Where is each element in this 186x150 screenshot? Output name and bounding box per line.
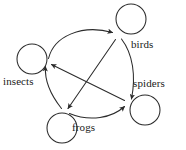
food-web-diagram: insects birds spiders frogs: [0, 0, 186, 150]
node-label-birds: birds: [131, 39, 154, 50]
birds-self-loop-icon: [116, 4, 146, 34]
edge-insects-to-birds: [49, 30, 113, 59]
spiders-self-loop-icon: [130, 95, 160, 125]
node-label-spiders: spiders: [133, 78, 165, 89]
edge-spiders-to-insects: [52, 65, 125, 101]
edge-birds-to-frogs: [68, 40, 116, 109]
insects-self-loop-icon: [17, 44, 47, 74]
edge-frogs-to-insects: [45, 67, 61, 109]
node-label-insects: insects: [3, 76, 34, 87]
node-label-frogs: frogs: [72, 122, 95, 133]
edge-frogs-to-spiders: [70, 107, 125, 119]
